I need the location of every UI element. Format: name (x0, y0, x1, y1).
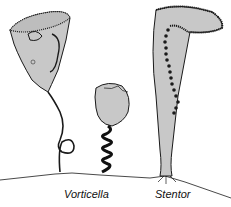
stentor-label: Stentor (155, 188, 190, 200)
stentor (153, 6, 222, 184)
vorticella-extended (10, 12, 74, 172)
vorticella-contracted (95, 83, 129, 172)
protozoa-illustration: Vorticella Stentor (0, 0, 231, 207)
substrate-line (0, 173, 231, 198)
vorticella-label: Vorticella (64, 188, 109, 200)
